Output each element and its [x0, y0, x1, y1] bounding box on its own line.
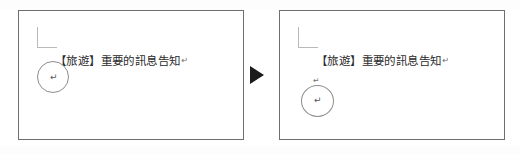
document-panel-before: 【旅遊】重要的訊息告知↵ ↵	[18, 10, 244, 140]
solid-right-triangle-icon	[250, 66, 264, 84]
paragraph-mark-icon: ↵	[181, 56, 188, 65]
document-text-after: 【旅遊】重要的訊息告知	[316, 54, 441, 68]
text-boundary-corner-icon	[298, 27, 318, 48]
text-boundary-corner-icon	[37, 27, 57, 48]
paragraph-mark-icon: ↵	[314, 96, 322, 105]
figure-canvas: 【旅遊】重要的訊息告知↵ ↵ 【旅遊】重要的訊息告知↵ ↵ ↵	[0, 0, 520, 155]
document-panel-after: 【旅遊】重要的訊息告知↵ ↵ ↵	[279, 10, 505, 140]
document-text-line-after: 【旅遊】重要的訊息告知↵	[316, 54, 450, 68]
scan-edge-bottom	[0, 145, 520, 155]
circle-annotation-after: ↵	[301, 85, 334, 117]
paragraph-mark-icon-extra: ↵	[313, 77, 319, 85]
scan-edge-top	[0, 0, 520, 10]
paragraph-mark-icon: ↵	[442, 56, 449, 65]
circle-annotation-before: ↵	[37, 61, 69, 93]
document-text-before: 【旅遊】重要的訊息告知	[55, 54, 180, 68]
document-text-line-before: 【旅遊】重要的訊息告知↵	[55, 54, 189, 68]
paragraph-mark-icon: ↵	[50, 73, 58, 82]
